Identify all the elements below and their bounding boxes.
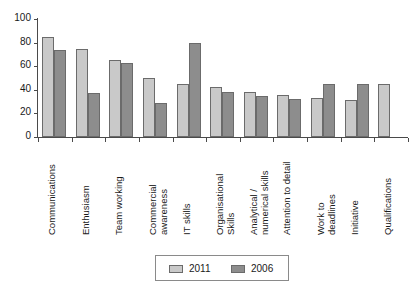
bar-group (177, 19, 203, 137)
y-tick-label: 60 (20, 59, 31, 70)
x-tick-mark (341, 138, 342, 142)
bar-group (345, 19, 371, 137)
category-label-line: Qualifications (382, 178, 393, 235)
bar-2011 (210, 87, 222, 137)
x-tick-mark (408, 138, 409, 142)
bar-group (42, 19, 68, 137)
category-label-line: numerical skills (259, 171, 270, 235)
category-label: Communications (47, 164, 58, 235)
legend-label-2006: 2006 (251, 263, 273, 274)
bar-group (378, 19, 404, 137)
x-tick-mark (374, 138, 375, 142)
bar-chart: 020406080100 CommunicationsEnthusiasmTea… (0, 0, 415, 297)
category-label: Attention to detail (282, 162, 293, 235)
category-label: Analytical /numerical skills (249, 171, 270, 235)
category-label-line: Enthusiasm (80, 185, 91, 235)
bar-2011 (143, 78, 155, 137)
bar-2011 (277, 95, 289, 137)
category-label-line: Communications (46, 164, 57, 235)
x-tick-mark (273, 138, 274, 142)
chart-legend: 2011 2006 (155, 255, 289, 281)
category-label: Commercialawareness (148, 184, 169, 235)
bar-2006 (222, 92, 234, 137)
legend-label-2011: 2011 (189, 263, 211, 274)
category-label-line: awareness (158, 184, 169, 235)
category-label-line: Team working (113, 176, 124, 235)
bar-2006 (289, 99, 301, 137)
x-tick-mark (38, 138, 39, 142)
category-label: IT skills (182, 204, 193, 236)
bar-2011 (42, 37, 54, 137)
x-tick-mark (240, 138, 241, 142)
bar-2006 (54, 50, 66, 137)
x-tick-mark (173, 138, 174, 142)
x-axis-line (37, 137, 408, 138)
category-label-line: Initiative (349, 200, 360, 235)
y-tick-label: 100 (14, 12, 31, 23)
x-tick-mark (139, 138, 140, 142)
bar-2006 (189, 43, 201, 137)
legend-swatch-2006 (231, 265, 245, 273)
bar-group (109, 19, 135, 137)
y-tick-label: 40 (20, 83, 31, 94)
category-label-line: Work to (315, 202, 326, 235)
plot-area (38, 19, 408, 137)
bar-2011 (244, 92, 256, 137)
bar-2006 (323, 84, 335, 137)
x-tick-mark (105, 138, 106, 142)
bar-2011 (76, 49, 88, 138)
bar-2011 (345, 100, 357, 137)
x-tick-mark (307, 138, 308, 142)
legend-item-2011: 2011 (169, 262, 211, 275)
bar-2011 (311, 98, 323, 137)
y-tick-label: 0 (25, 130, 31, 141)
category-label: Initiative (350, 200, 361, 235)
bar-2006 (256, 96, 268, 137)
legend-item-2006: 2006 (231, 262, 273, 275)
category-label: OrganisationalSkills (215, 174, 236, 235)
x-tick-mark (72, 138, 73, 142)
bar-2011 (177, 84, 189, 137)
category-label-line: IT skills (181, 204, 192, 236)
y-tick-label: 80 (20, 36, 31, 47)
bar-group (277, 19, 303, 137)
category-label-line: deadlines (327, 194, 338, 235)
category-label-line: Skills (226, 174, 237, 235)
category-label-line: Attention to detail (281, 162, 292, 235)
bar-2011 (109, 60, 121, 137)
bar-group (244, 19, 270, 137)
bar-2006 (121, 63, 133, 137)
x-tick-mark (206, 138, 207, 142)
bar-group (143, 19, 169, 137)
bar-2006 (357, 84, 369, 137)
category-label-line: Analytical / (248, 189, 259, 235)
category-label: Qualifications (383, 178, 394, 235)
bar-2006 (88, 93, 100, 137)
x-axis-category-labels: CommunicationsEnthusiasmTeam workingComm… (38, 143, 408, 238)
bar-group (76, 19, 102, 137)
legend-swatch-2011 (169, 265, 183, 273)
bar-group (311, 19, 337, 137)
bar-2011 (378, 84, 390, 137)
category-label: Work todeadlines (316, 194, 337, 235)
bar-group (210, 19, 236, 137)
category-label: Team working (114, 176, 125, 235)
category-label: Enthusiasm (81, 185, 92, 235)
y-tick-label: 20 (20, 106, 31, 117)
category-label-line: Organisational (214, 174, 225, 235)
category-label-line: Commercial (147, 184, 158, 235)
bar-2006 (155, 103, 167, 137)
